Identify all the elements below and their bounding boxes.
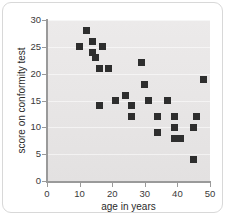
- x-tick-label: 0: [32, 188, 62, 199]
- gridline: [47, 74, 210, 75]
- data-point: [96, 102, 103, 109]
- data-point: [190, 156, 197, 163]
- chart-card: 051015202530 01020304050 age in years sc…: [2, 2, 223, 213]
- data-point: [138, 59, 145, 66]
- y-tick-mark: [42, 127, 46, 128]
- data-point: [154, 129, 161, 136]
- data-point: [171, 124, 178, 131]
- data-point: [193, 113, 200, 120]
- data-point: [99, 43, 106, 50]
- x-tick-mark: [177, 183, 178, 187]
- data-point: [145, 97, 152, 104]
- data-point: [122, 92, 129, 99]
- y-axis-title: score on conformity test: [16, 21, 27, 181]
- x-tick-label: 30: [130, 188, 160, 199]
- data-point: [105, 65, 112, 72]
- data-point: [141, 81, 148, 88]
- data-point: [83, 27, 90, 34]
- x-tick-mark: [145, 183, 146, 187]
- gridline: [47, 154, 210, 155]
- data-point: [171, 113, 178, 120]
- y-tick-mark: [42, 181, 46, 182]
- data-point: [89, 38, 96, 45]
- data-point: [112, 97, 119, 104]
- y-tick-mark: [42, 20, 46, 21]
- data-point: [96, 65, 103, 72]
- x-tick-label: 50: [195, 188, 225, 199]
- y-axis-line: [46, 19, 48, 182]
- data-point: [154, 113, 161, 120]
- data-point: [190, 124, 197, 131]
- gridline: [47, 127, 210, 128]
- x-tick-mark: [47, 183, 48, 187]
- x-tick-mark: [80, 183, 81, 187]
- gridline: [47, 47, 210, 48]
- y-tick-mark: [42, 47, 46, 48]
- x-tick-label: 10: [65, 188, 95, 199]
- x-axis-line: [46, 181, 211, 183]
- data-point: [200, 76, 207, 83]
- data-point: [128, 113, 135, 120]
- x-axis-title: age in years: [47, 201, 210, 212]
- y-tick-mark: [42, 154, 46, 155]
- data-point: [76, 43, 83, 50]
- x-tick-label: 20: [97, 188, 127, 199]
- x-tick-mark: [210, 183, 211, 187]
- y-tick-mark: [42, 101, 46, 102]
- x-tick-mark: [112, 183, 113, 187]
- x-tick-label: 40: [162, 188, 192, 199]
- plot-area: [47, 20, 210, 181]
- data-point: [164, 97, 171, 104]
- data-point: [177, 135, 184, 142]
- data-point: [128, 102, 135, 109]
- gridline: [47, 20, 210, 21]
- data-point: [92, 54, 99, 61]
- y-tick-mark: [42, 74, 46, 75]
- gridline: [47, 101, 210, 102]
